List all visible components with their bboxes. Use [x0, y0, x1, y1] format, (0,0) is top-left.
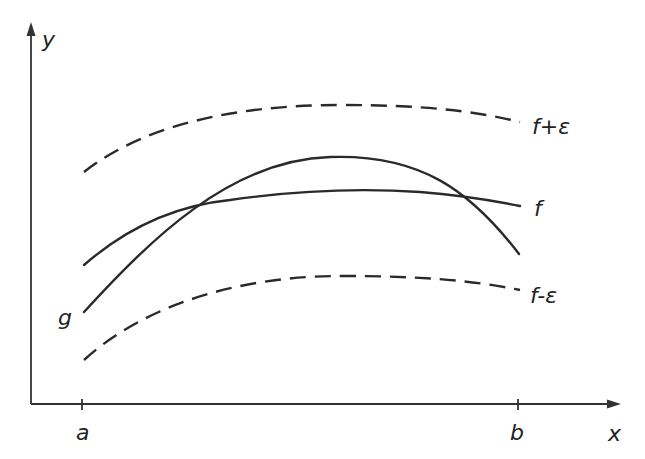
label-f-minus-epsilon: f-ε: [530, 283, 557, 308]
axes: [27, 22, 622, 410]
curve-g: [84, 157, 519, 312]
label-g: g: [58, 305, 72, 330]
curve-f: [84, 190, 520, 265]
label-f-plus-epsilon: f+ε: [532, 114, 570, 139]
y-axis-arrow-icon: [27, 22, 36, 36]
label-f: f: [534, 196, 545, 221]
curve-f-minus-epsilon: [84, 276, 520, 360]
tick-label-a: a: [76, 420, 89, 445]
uniform-approximation-diagram: y x a b f+ε f g f-ε: [0, 0, 645, 459]
tick-label-b: b: [510, 420, 524, 445]
y-axis-label: y: [41, 27, 56, 52]
curve-f-plus-epsilon: [84, 105, 520, 172]
x-axis-arrow-icon: [607, 400, 621, 409]
x-axis-label: x: [607, 421, 622, 446]
